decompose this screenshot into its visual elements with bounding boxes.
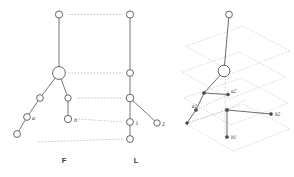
panel-l-nodes <box>126 11 160 143</box>
panel-f-edge-2 <box>29 101 38 114</box>
panel-f-node-f-mid-r[interactable] <box>65 95 71 101</box>
figure-root: ab 12 a1a2b2b1 FL <box>0 0 294 177</box>
panel-l-label-1: 1 <box>136 120 139 126</box>
panel-3d-edge-1 <box>205 75 220 92</box>
panel-3d-node-t-hub[interactable] <box>225 108 229 112</box>
panel-3d-label-b2: b2 <box>275 111 281 117</box>
panel-3d-node-t-root[interactable] <box>226 11 233 18</box>
projection-line-proj-a-1 <box>196 95 228 111</box>
projection-line-proj-b-1 <box>227 100 245 110</box>
panel-l-node-l-n2[interactable] <box>127 70 134 77</box>
panel-3d-label-a1: a1 <box>192 103 198 109</box>
panel-l-node-l-two[interactable] <box>154 120 160 126</box>
panel-3d-node-t-b1[interactable] <box>225 135 228 138</box>
panel-3d-edge-4 <box>188 111 196 122</box>
panel-3d-edge-3 <box>196 94 203 109</box>
panel-f-node-f-a[interactable] <box>24 114 31 121</box>
panel-f-node-f-leaf-l[interactable] <box>14 131 21 138</box>
panel-f-nodes <box>14 11 72 138</box>
correspondence-line-corr-4 <box>38 139 123 142</box>
panel-3d-node-t-a2[interactable] <box>226 93 229 96</box>
correspondence-line-corr-3 <box>78 119 123 122</box>
panel-caption-F: F <box>62 156 67 165</box>
panel-l-node-l-bot[interactable] <box>127 136 134 143</box>
panel-3d-edge-0 <box>225 18 229 65</box>
layer-plane-top <box>186 26 290 73</box>
panel-l-edges <box>130 18 155 136</box>
panel-caption-L: L <box>134 156 139 165</box>
panel-3d-edges <box>188 18 271 136</box>
panel-f-edge-1 <box>42 78 55 95</box>
panel-l-node-l-one[interactable] <box>127 119 134 126</box>
panel-l-edge-4 <box>133 101 155 121</box>
panel-l-label-2: 2 <box>162 121 165 127</box>
panel-3d-edge-2 <box>205 93 227 94</box>
figure-canvas: ab 12 a1a2b2b1 FL <box>0 0 294 177</box>
correspondence-lines-group <box>38 15 123 143</box>
panel-captions: FL <box>62 156 139 165</box>
panel-3d-node-t-a1[interactable] <box>202 91 205 94</box>
panel-f-edge-4 <box>61 79 67 95</box>
panel-f-node-f-mid-l[interactable] <box>37 95 44 102</box>
panel-f-node-f-b[interactable] <box>64 115 71 122</box>
panel-f-node-f-root[interactable] <box>55 11 62 18</box>
panel-f-node-f-big[interactable] <box>53 67 66 80</box>
panel-3d-node-t-b2[interactable] <box>269 112 272 115</box>
panel-l-node-l-root[interactable] <box>126 11 133 18</box>
panel-3d-node-t-big[interactable] <box>218 65 230 77</box>
panel-f-edge-3 <box>19 120 26 131</box>
panel-l-node-l-n3[interactable] <box>126 94 134 102</box>
panel-3d-node-t-aleaf[interactable] <box>186 122 189 125</box>
panel-f-label-b: b <box>74 116 77 123</box>
panel-3d-label-a2: a2 <box>231 88 237 94</box>
panel-f-label-a: a <box>32 114 35 121</box>
panel-3d-label-b1: b1 <box>231 134 237 140</box>
